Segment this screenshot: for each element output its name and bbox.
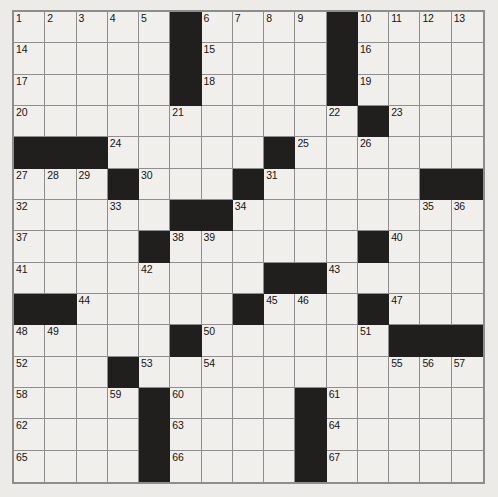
grid-cell-open[interactable] — [139, 325, 170, 356]
grid-cell-open[interactable] — [295, 325, 326, 356]
grid-cell-open[interactable] — [77, 200, 108, 231]
grid-cell-open[interactable] — [452, 388, 483, 419]
grid-cell-open[interactable] — [327, 294, 358, 325]
grid-cell-open[interactable] — [420, 137, 451, 168]
grid-cell-open[interactable] — [233, 137, 264, 168]
grid-cell-open[interactable] — [77, 231, 108, 262]
grid-cell-open[interactable]: 61 — [327, 388, 358, 419]
grid-cell-open[interactable] — [45, 419, 76, 450]
grid-cell-open[interactable] — [233, 106, 264, 137]
grid-cell-open[interactable] — [295, 231, 326, 262]
grid-cell-open[interactable] — [77, 325, 108, 356]
grid-cell-open[interactable] — [108, 263, 139, 294]
grid-cell-open[interactable]: 41 — [14, 263, 45, 294]
grid-cell-open[interactable] — [45, 357, 76, 388]
grid-cell-open[interactable]: 36 — [452, 200, 483, 231]
grid-cell-open[interactable] — [139, 106, 170, 137]
grid-cell-open[interactable]: 2 — [45, 12, 76, 43]
grid-cell-open[interactable] — [452, 231, 483, 262]
grid-cell-open[interactable] — [108, 419, 139, 450]
grid-cell-open[interactable]: 11 — [389, 12, 420, 43]
grid-cell-open[interactable] — [108, 294, 139, 325]
grid-cell-open[interactable] — [420, 231, 451, 262]
grid-cell-open[interactable] — [452, 263, 483, 294]
grid-cell-open[interactable] — [77, 106, 108, 137]
grid-cell-open[interactable] — [45, 231, 76, 262]
grid-cell-open[interactable]: 9 — [295, 12, 326, 43]
grid-cell-open[interactable] — [233, 263, 264, 294]
grid-cell-open[interactable] — [77, 357, 108, 388]
grid-cell-open[interactable] — [202, 263, 233, 294]
grid-cell-open[interactable] — [389, 419, 420, 450]
grid-cell-open[interactable] — [233, 419, 264, 450]
grid-cell-open[interactable]: 60 — [170, 388, 201, 419]
grid-cell-open[interactable] — [139, 294, 170, 325]
grid-cell-open[interactable] — [170, 263, 201, 294]
grid-cell-open[interactable] — [264, 231, 295, 262]
grid-cell-open[interactable]: 51 — [358, 325, 389, 356]
grid-cell-open[interactable]: 33 — [108, 200, 139, 231]
grid-cell-open[interactable] — [202, 137, 233, 168]
grid-cell-open[interactable] — [264, 451, 295, 482]
grid-cell-open[interactable] — [327, 357, 358, 388]
grid-cell-open[interactable] — [420, 388, 451, 419]
grid-cell-open[interactable] — [202, 419, 233, 450]
grid-cell-open[interactable]: 62 — [14, 419, 45, 450]
grid-cell-open[interactable]: 32 — [14, 200, 45, 231]
grid-cell-open[interactable]: 48 — [14, 325, 45, 356]
grid-cell-open[interactable]: 40 — [389, 231, 420, 262]
grid-cell-open[interactable] — [420, 451, 451, 482]
grid-cell-open[interactable]: 12 — [420, 12, 451, 43]
grid-cell-open[interactable] — [389, 169, 420, 200]
grid-cell-open[interactable] — [139, 137, 170, 168]
grid-cell-open[interactable] — [327, 231, 358, 262]
grid-cell-open[interactable] — [202, 106, 233, 137]
grid-cell-open[interactable] — [327, 200, 358, 231]
grid-cell-open[interactable]: 29 — [77, 169, 108, 200]
grid-cell-open[interactable]: 6 — [202, 12, 233, 43]
grid-cell-open[interactable]: 26 — [358, 137, 389, 168]
grid-cell-open[interactable]: 5 — [139, 12, 170, 43]
grid-cell-open[interactable] — [389, 43, 420, 74]
grid-cell-open[interactable]: 7 — [233, 12, 264, 43]
grid-cell-open[interactable]: 59 — [108, 388, 139, 419]
grid-cell-open[interactable] — [170, 294, 201, 325]
grid-cell-open[interactable] — [452, 419, 483, 450]
grid-cell-open[interactable] — [139, 43, 170, 74]
grid-cell-open[interactable] — [139, 200, 170, 231]
grid-cell-open[interactable] — [389, 137, 420, 168]
grid-cell-open[interactable] — [420, 263, 451, 294]
grid-cell-open[interactable] — [452, 137, 483, 168]
grid-cell-open[interactable] — [327, 169, 358, 200]
grid-cell-open[interactable]: 47 — [389, 294, 420, 325]
grid-cell-open[interactable] — [77, 75, 108, 106]
grid-cell-open[interactable] — [295, 200, 326, 231]
grid-cell-open[interactable]: 52 — [14, 357, 45, 388]
grid-cell-open[interactable] — [45, 75, 76, 106]
grid-cell-open[interactable] — [358, 200, 389, 231]
grid-cell-open[interactable]: 8 — [264, 12, 295, 43]
grid-cell-open[interactable] — [420, 106, 451, 137]
grid-cell-open[interactable]: 35 — [420, 200, 451, 231]
grid-cell-open[interactable] — [108, 325, 139, 356]
grid-cell-open[interactable]: 45 — [264, 294, 295, 325]
grid-cell-open[interactable]: 34 — [233, 200, 264, 231]
grid-cell-open[interactable] — [233, 75, 264, 106]
grid-cell-open[interactable]: 3 — [77, 12, 108, 43]
grid-cell-open[interactable] — [170, 357, 201, 388]
grid-cell-open[interactable] — [170, 137, 201, 168]
grid-cell-open[interactable] — [202, 388, 233, 419]
grid-cell-open[interactable] — [452, 294, 483, 325]
grid-cell-open[interactable] — [264, 43, 295, 74]
grid-cell-open[interactable] — [389, 200, 420, 231]
grid-cell-open[interactable] — [452, 43, 483, 74]
grid-cell-open[interactable] — [233, 231, 264, 262]
grid-cell-open[interactable]: 27 — [14, 169, 45, 200]
grid-cell-open[interactable] — [452, 451, 483, 482]
grid-cell-open[interactable]: 63 — [170, 419, 201, 450]
grid-cell-open[interactable] — [77, 419, 108, 450]
grid-cell-open[interactable]: 28 — [45, 169, 76, 200]
grid-cell-open[interactable]: 43 — [327, 263, 358, 294]
grid-cell-open[interactable] — [389, 451, 420, 482]
grid-cell-open[interactable] — [45, 263, 76, 294]
